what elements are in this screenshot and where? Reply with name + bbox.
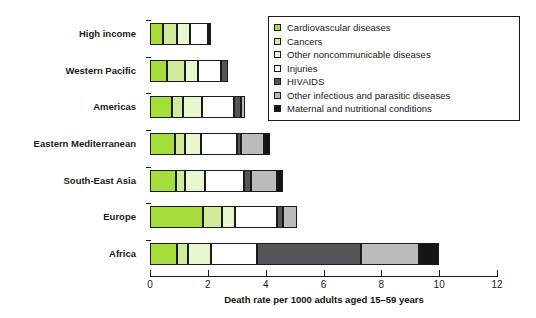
x-axis-tick-label: 2 [205,279,211,290]
y-axis-label-western-pacific: Western Pacific [65,66,136,76]
x-axis-tick [208,270,209,277]
bar-segment-cancers [176,170,185,192]
bar-segment-other-infectious-and-parasitic-diseases [283,206,297,228]
bar-segment-other-noncommunicable-diseases [185,60,198,82]
y-axis-label-europe: Europe [103,212,136,222]
bar-segment-hivaids [257,243,361,265]
y-axis-tick [146,203,151,204]
bar-segment-cancers [203,206,222,228]
legend-swatch-icon [274,51,281,58]
legend-swatch-icon [274,38,281,45]
y-axis-label-africa: Africa [109,249,136,259]
bar-segment-cardiovascular-diseases [150,60,167,82]
bar-segment-cancers [175,133,185,155]
y-axis-tick [146,130,151,131]
bar-segment-other-noncommunicable-diseases [185,170,205,192]
bar-segment-injuries [198,60,221,82]
y-axis-label-south-east-asia: South-East Asia [64,176,137,186]
bar-segment-other-infectious-and-parasitic-diseases [241,96,245,118]
legend-item-other-infectious-and-parasitic-diseases[interactable]: Other infectious and parasitic diseases [274,89,514,103]
legend-label: Other noncommunicable diseases [287,49,431,60]
legend-swatch-icon [274,92,281,99]
y-axis-tick [146,167,151,168]
y-axis-tick [146,240,151,241]
x-axis-tick-label: 8 [379,279,385,290]
y-axis-tick [146,20,151,21]
bar-segment-other-infectious-and-parasitic-diseases [361,243,419,265]
bar-segment-cancers [163,23,177,45]
bar-segment-cardiovascular-diseases [150,243,177,265]
legend-item-hivaids[interactable]: HIVAIDS [274,75,514,89]
bar-segment-other-infectious-and-parasitic-diseases [241,133,264,155]
bar-segment-hivaids [234,96,241,118]
legend-label: Cardiovascular diseases [287,22,391,33]
bar-segment-cancers [167,60,184,82]
bar-segment-injuries [205,170,244,192]
x-axis-tick [439,270,440,277]
legend-swatch-icon [274,24,281,31]
bar-segment-other-noncommunicable-diseases [183,96,202,118]
stacked-bar-chart: High incomeWestern PacificAmericasEaster… [0,0,536,318]
legend-swatch-icon [274,65,281,72]
bar-segment-injuries [190,23,207,45]
x-axis-tick [150,270,151,277]
y-axis-tick [146,93,151,94]
bar-segment-other-noncommunicable-diseases [188,243,211,265]
legend-swatch-icon [274,78,281,85]
y-axis-label-americas: Americas [93,102,136,112]
bar-segment-injuries [211,243,257,265]
legend-label: Injuries [287,63,318,74]
bar-segment-injuries [201,133,237,155]
bar-segment-other-noncommunicable-diseases [222,206,235,228]
legend-label: HIVAIDS [287,76,324,87]
bar-row [150,243,497,265]
legend-label: Other infectious and parasitic diseases [287,90,450,101]
bar-segment-other-infectious-and-parasitic-diseases [251,170,277,192]
legend: Cardiovascular diseasesCancersOther nonc… [268,16,520,121]
x-axis-tick-label: 0 [147,279,153,290]
y-axis-tick [146,57,151,58]
bar-segment-other-noncommunicable-diseases [185,133,201,155]
y-axis-label-high-income: High income [79,29,136,39]
x-axis-tick-label: 12 [491,279,502,290]
bar-segment-cardiovascular-diseases [150,23,163,45]
bar-segment-other-infectious-and-parasitic-diseases [209,23,211,45]
x-axis-tick [324,270,325,277]
x-axis-tick-label: 6 [321,279,327,290]
bar-row [150,133,497,155]
bar-segment-cardiovascular-diseases [150,96,172,118]
legend-item-maternal-and-nutritional-conditions[interactable]: Maternal and nutritional conditions [274,102,514,116]
bar-segment-cardiovascular-diseases [150,206,203,228]
bar-row [150,170,497,192]
legend-item-other-noncommunicable-diseases[interactable]: Other noncommunicable diseases [274,48,514,62]
bar-segment-injuries [235,206,277,228]
y-axis-category-labels: High incomeWestern PacificAmericasEaster… [0,0,146,270]
x-axis-tick-label: 4 [263,279,269,290]
bar-segment-maternal-and-nutritional-conditions [277,170,283,192]
bar-segment-cardiovascular-diseases [150,170,176,192]
bar-segment-cancers [172,96,184,118]
legend-item-cancers[interactable]: Cancers [274,35,514,49]
y-axis-label-eastern-mediterranean: Eastern Mediterranean [34,139,136,149]
legend-item-injuries[interactable]: Injuries [274,62,514,76]
x-axis-tick [381,270,382,277]
bar-segment-hivaids [221,60,228,82]
x-axis-title: Death rate per 1000 adults aged 15–59 ye… [150,294,498,305]
legend-swatch-icon [274,105,281,112]
bar-segment-maternal-and-nutritional-conditions [264,133,270,155]
x-axis-tick [497,270,498,277]
x-axis-tick [266,270,267,277]
legend-label: Maternal and nutritional conditions [287,103,432,114]
legend-label: Cancers [287,36,322,47]
bar-segment-cardiovascular-diseases [150,133,175,155]
bar-segment-hivaids [244,170,251,192]
bar-segment-injuries [202,96,234,118]
bar-segment-other-noncommunicable-diseases [177,23,190,45]
x-axis-tick-label: 10 [434,279,445,290]
bar-row [150,206,497,228]
bar-segment-maternal-and-nutritional-conditions [419,243,439,265]
bar-segment-cancers [177,243,187,265]
legend-item-cardiovascular-diseases[interactable]: Cardiovascular diseases [274,21,514,35]
